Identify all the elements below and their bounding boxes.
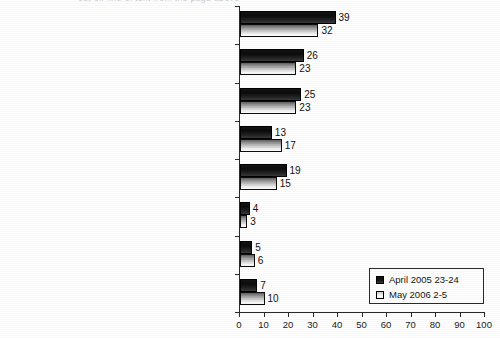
x-axis-tick-label: 0 xyxy=(236,319,241,330)
legend-item-april-2005: April 2005 23-24 xyxy=(376,272,483,287)
bar-may-2006 xyxy=(240,292,265,305)
x-axis-tick-label: 90 xyxy=(454,319,465,330)
legend-label-may-2006: May 2006 2-5 xyxy=(389,289,447,300)
legend-label-april-2005: April 2005 23-24 xyxy=(389,274,459,285)
bar-value-label: 13 xyxy=(275,126,286,139)
bar-april-2005 xyxy=(240,241,252,254)
bar-value-label: 5 xyxy=(255,241,261,254)
x-axis-tick-label: 20 xyxy=(283,319,294,330)
x-axis-tick-label: 40 xyxy=(332,319,343,330)
bar-value-label: 26 xyxy=(307,49,318,62)
bar-value-label: 23 xyxy=(299,101,310,114)
legend-swatch-april-2005 xyxy=(376,276,384,284)
bar-april-2005 xyxy=(240,279,257,292)
x-axis-tick xyxy=(460,313,461,317)
x-axis-tick-label: 50 xyxy=(356,319,367,330)
cropped-text-artifact-label: cut-off line of text from the page above xyxy=(78,0,368,3)
bar-may-2006 xyxy=(240,254,255,267)
x-axis-tick xyxy=(411,313,412,317)
bar-april-2005 xyxy=(240,126,272,139)
x-axis-tick-label: 80 xyxy=(430,319,441,330)
x-axis-tick xyxy=(386,313,387,317)
bar-value-label: 25 xyxy=(304,88,315,101)
x-axis-tick-label: 100 xyxy=(476,319,492,330)
bar-value-label: 6 xyxy=(258,254,264,267)
bar-value-label: 4 xyxy=(253,202,259,215)
x-axis-tick-label: 10 xyxy=(258,319,269,330)
x-axis-tick xyxy=(239,313,240,317)
bar-value-label: 32 xyxy=(321,24,332,37)
bar-april-2005 xyxy=(240,164,287,177)
bar-value-label: 23 xyxy=(299,62,310,75)
x-axis-tick xyxy=(435,313,436,317)
bar-value-label: 19 xyxy=(290,164,301,177)
chart-legend: April 2005 23-24 May 2006 2-5 xyxy=(369,268,484,304)
plot-area: have a holiday meal with my family3932vi… xyxy=(239,6,484,312)
legend-item-may-2006: May 2006 2-5 xyxy=(376,287,483,302)
bar-value-label: 7 xyxy=(260,279,266,292)
x-axis-tick xyxy=(337,313,338,317)
bar-may-2006 xyxy=(240,215,247,228)
category-group: don't plan to celebrate Victory Day1317 xyxy=(239,121,484,159)
x-axis-tick-label: 60 xyxy=(381,319,392,330)
x-axis-tick xyxy=(484,313,485,317)
category-group: take part in holiday events2523 xyxy=(239,83,484,121)
x-axis-tick xyxy=(264,313,265,317)
bar-value-label: 39 xyxy=(339,11,350,24)
bar-may-2006 xyxy=(240,62,296,75)
category-group: go to church to pray for those slain in … xyxy=(239,197,484,235)
x-axis-tick xyxy=(362,313,363,317)
category-group: invite guests or visit people1915 xyxy=(239,159,484,197)
cropped-text-artifact: cut-off line of text from the page above xyxy=(78,0,368,4)
bar-may-2006 xyxy=(240,24,318,37)
bar-april-2005 xyxy=(240,11,336,24)
bar-may-2006 xyxy=(240,101,296,114)
bar-value-label: 10 xyxy=(268,292,279,305)
bar-april-2005 xyxy=(240,202,250,215)
legend-swatch-may-2006 xyxy=(376,291,384,299)
x-axis-tick xyxy=(313,313,314,317)
chart-figure: cut-off line of text from the page above… xyxy=(0,0,500,338)
bar-may-2006 xyxy=(240,177,277,190)
x-axis-tick-label: 30 xyxy=(307,319,318,330)
bar-april-2005 xyxy=(240,49,304,62)
category-group: visit graveyards and memorials to those … xyxy=(239,44,484,82)
x-axis-tick-label: 70 xyxy=(405,319,416,330)
category-group: have a holiday meal with my family3932 xyxy=(239,6,484,44)
x-axis-tick xyxy=(288,313,289,317)
bar-value-label: 17 xyxy=(285,139,296,152)
bar-may-2006 xyxy=(240,139,282,152)
bar-value-label: 3 xyxy=(250,215,256,228)
bar-value-label: 15 xyxy=(280,177,291,190)
bar-april-2005 xyxy=(240,88,301,101)
